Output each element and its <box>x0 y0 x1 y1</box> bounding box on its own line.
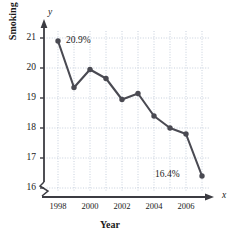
y-axis-break-icon <box>40 182 48 196</box>
x-tick-label-1998: 1998 <box>41 202 75 211</box>
x-tick-label-2000: 2000 <box>73 202 107 211</box>
y-tick-label-17: 17 <box>14 153 36 163</box>
y-tick-label-18: 18 <box>14 123 36 133</box>
y-tick-label-20: 20 <box>14 63 36 73</box>
y-axis-title: Smoking Rate <box>7 0 18 40</box>
x-axis <box>42 194 214 201</box>
grid-lines-vertical <box>58 31 202 192</box>
y-axis-title-wrapper: Smoking Rate <box>2 0 20 58</box>
annotation-first-point: 20.9% <box>66 36 91 46</box>
x-axis-title: Year <box>100 220 120 230</box>
y-tick-label-19: 19 <box>14 93 36 103</box>
annotation-last-point: 16.4% <box>155 170 180 180</box>
x-tick-label-2006: 2006 <box>169 202 203 211</box>
y-axis-symbol: y <box>48 8 52 18</box>
smoking-rate-line-chart: 21 20 19 18 17 16 1998 2000 2002 2004 20… <box>0 0 238 243</box>
x-axis-symbol: x <box>222 191 226 201</box>
x-tick-label-2004: 2004 <box>137 202 171 211</box>
y-tick-label-16: 16 <box>14 183 36 193</box>
grid-lines-horizontal <box>44 38 210 188</box>
data-line-smoking-rate <box>58 41 202 176</box>
x-tick-label-2002: 2002 <box>105 202 139 211</box>
